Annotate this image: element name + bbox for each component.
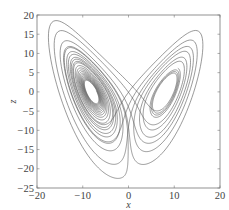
y-tick-label: 10 xyxy=(24,48,35,59)
y-tick-label: −5 xyxy=(23,106,34,117)
x-tick-label: −10 xyxy=(75,190,91,201)
y-tick-labels: −25−20−15−10−505101520 xyxy=(18,10,34,194)
x-tick-label: 10 xyxy=(169,190,180,201)
attractor-chart: −25−20−15−10−505101520 −20−1001020 z x xyxy=(0,0,229,210)
x-axis-label: x xyxy=(125,199,131,210)
y-axis-label: z xyxy=(7,99,18,104)
y-tick-label: 15 xyxy=(24,29,35,40)
x-tick-label: 20 xyxy=(215,190,226,201)
y-tick-label: 20 xyxy=(24,10,35,21)
y-tick-label: −15 xyxy=(18,144,34,155)
attractor-trajectory xyxy=(48,21,202,179)
y-tick-label: 5 xyxy=(29,67,34,78)
y-tick-label: −20 xyxy=(18,163,34,174)
y-tick-label: −10 xyxy=(18,125,34,136)
y-tick-label: 0 xyxy=(29,86,34,97)
x-tick-label: −20 xyxy=(29,190,45,201)
